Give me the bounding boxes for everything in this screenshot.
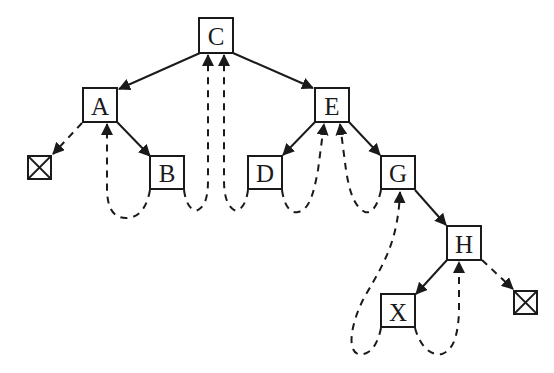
node-x: X bbox=[381, 294, 415, 327]
thread-edges bbox=[53, 55, 513, 354]
node-a: A bbox=[83, 88, 117, 122]
null-node-left bbox=[28, 156, 51, 179]
node-h: H bbox=[447, 226, 481, 260]
thread-x-h bbox=[415, 262, 459, 354]
thread-d-e bbox=[282, 124, 324, 212]
thread-h-null bbox=[482, 260, 513, 289]
node-x-label: X bbox=[389, 299, 407, 326]
edge-e-g bbox=[349, 122, 380, 155]
edge-g-h bbox=[415, 190, 446, 225]
node-a-label: A bbox=[91, 93, 109, 120]
node-b-label: B bbox=[159, 160, 176, 187]
thread-x-g bbox=[352, 192, 400, 354]
thread-b-a bbox=[107, 124, 150, 218]
edge-e-d bbox=[283, 122, 315, 155]
node-c-label: C bbox=[208, 23, 225, 50]
node-d-label: D bbox=[256, 160, 274, 187]
node-g: G bbox=[381, 156, 415, 189]
edge-c-a bbox=[119, 53, 200, 89]
thread-d-c bbox=[224, 55, 248, 210]
node-c: C bbox=[199, 18, 233, 53]
threaded-binary-tree-diagram: C A E B D G H X bbox=[0, 0, 554, 373]
edge-h-x bbox=[416, 260, 447, 294]
thread-b-c bbox=[184, 55, 208, 210]
node-e-label: E bbox=[324, 93, 339, 120]
node-b: B bbox=[150, 156, 184, 189]
edge-a-b bbox=[117, 122, 150, 156]
node-g-label: G bbox=[389, 160, 407, 187]
node-d: D bbox=[248, 156, 282, 189]
null-node-right bbox=[514, 291, 537, 314]
node-e: E bbox=[315, 88, 349, 122]
edge-c-e bbox=[233, 53, 313, 88]
thread-a-null bbox=[53, 123, 82, 154]
node-h-label: H bbox=[455, 231, 473, 258]
thread-g-e bbox=[340, 124, 381, 212]
